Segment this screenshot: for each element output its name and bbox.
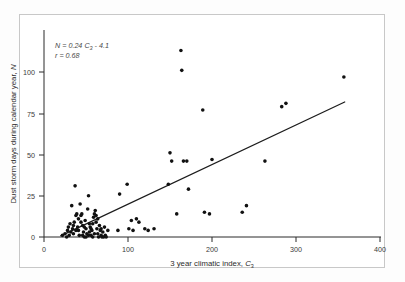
data-point (240, 210, 244, 214)
data-point (180, 69, 184, 73)
data-point (101, 230, 105, 234)
y-tick-marks (39, 72, 44, 237)
data-point (168, 151, 172, 155)
data-point (342, 75, 346, 79)
data-point (87, 194, 91, 198)
y-tick-label-4: 100 (23, 68, 35, 77)
data-point (91, 235, 95, 239)
equation-prefix: N = 0.24 (55, 41, 84, 50)
data-point (103, 225, 107, 229)
data-point (88, 222, 92, 226)
figure-container: 0 100 200 300 400 0 25 50 75 100 3 year … (0, 0, 405, 282)
data-point (70, 204, 74, 208)
data-point (185, 159, 189, 163)
data-point (80, 212, 84, 216)
data-point (203, 210, 207, 214)
data-point (91, 222, 95, 226)
data-point (67, 234, 71, 238)
data-point (93, 232, 97, 236)
data-point (131, 229, 135, 233)
x-axis-title: 3 year climatic index, C3 (170, 259, 254, 269)
data-point (96, 232, 100, 236)
data-point (76, 225, 80, 229)
data-point (245, 204, 249, 208)
data-point (135, 217, 139, 221)
data-point (88, 230, 92, 234)
x-tick-label-2: 200 (206, 245, 218, 254)
data-point (74, 229, 78, 233)
data-point (106, 229, 110, 233)
data-point (67, 225, 71, 229)
x-tick-label-3: 300 (290, 245, 302, 254)
data-point (94, 220, 98, 224)
y-tick-label-2: 50 (27, 151, 35, 160)
data-point (125, 182, 129, 186)
data-point (210, 158, 214, 162)
y-tick-label-0: 0 (31, 233, 35, 242)
data-point (68, 222, 72, 226)
data-point (152, 227, 156, 231)
x-tick-marks (44, 237, 380, 242)
data-point (127, 227, 131, 231)
regression-equation: N = 0.24 C3 - 4.1 (55, 41, 109, 51)
data-point (170, 159, 174, 163)
y-axis-title: Dust storm days during calendar year, N (9, 64, 18, 203)
x-axis-title-sub: 3 (251, 263, 254, 269)
data-point (116, 229, 120, 233)
data-point (208, 212, 212, 216)
data-point (146, 229, 150, 233)
data-point (98, 224, 102, 228)
data-point (280, 105, 284, 109)
data-point (118, 192, 122, 196)
data-point (63, 232, 67, 236)
data-point (95, 227, 99, 231)
data-point (72, 220, 76, 224)
data-point (77, 234, 81, 238)
y-axis-title-main: Dust storm days during calendar year, (9, 70, 18, 203)
scatter-points (61, 49, 346, 239)
data-point (72, 232, 76, 236)
plot-svg: 0 100 200 300 400 0 25 50 75 100 3 year … (0, 0, 405, 282)
y-tick-label-3: 75 (27, 110, 35, 119)
data-point (77, 217, 81, 221)
data-point (87, 234, 91, 238)
x-tick-label-1: 100 (122, 245, 134, 254)
data-point (137, 220, 141, 224)
data-point (167, 182, 171, 186)
data-point (201, 108, 205, 112)
data-point (182, 159, 186, 163)
data-point (82, 230, 86, 234)
x-tick-label-0: 0 (42, 245, 46, 254)
x-tick-label-4: 400 (374, 245, 386, 254)
data-point (284, 102, 288, 106)
y-tick-label-1: 25 (27, 192, 35, 201)
data-point (81, 234, 85, 238)
data-point (79, 220, 83, 224)
x-axis-title-main: 3 year climatic index, (170, 259, 245, 268)
data-point (83, 225, 87, 229)
data-point (72, 224, 76, 228)
data-point (104, 235, 108, 239)
data-point (99, 227, 103, 231)
data-point (179, 49, 183, 53)
data-point (78, 202, 82, 206)
scatter-plot: 0 100 200 300 400 0 25 50 75 100 3 year … (0, 0, 405, 282)
data-point (71, 227, 75, 231)
data-point (96, 217, 100, 221)
regression-line (61, 102, 345, 236)
data-point (89, 227, 93, 231)
data-point (86, 207, 90, 211)
data-point (93, 209, 97, 213)
equation-suffix: - 4.1 (93, 41, 109, 50)
data-point (66, 229, 70, 233)
data-point (73, 184, 77, 188)
data-point (83, 219, 87, 223)
correlation-coefficient: r = 0.68 (55, 51, 80, 60)
data-point (94, 214, 98, 218)
y-axis-title-var: N (9, 64, 18, 70)
data-point (143, 227, 147, 231)
data-point (130, 219, 134, 223)
data-point (263, 159, 267, 163)
data-point (75, 212, 79, 216)
data-point (187, 187, 191, 191)
